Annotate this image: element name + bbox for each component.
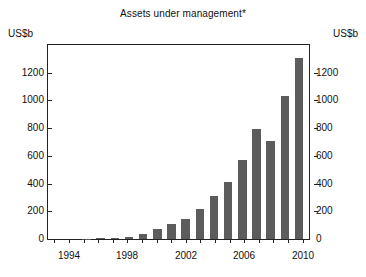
y-tick-mark: [314, 184, 318, 185]
bar-slot: [164, 45, 178, 239]
bar-slot: [94, 45, 108, 239]
y-axis-tick-label: 600: [27, 151, 44, 161]
y-axis-tick-label: 1000: [316, 95, 338, 105]
y-tick-mark: [48, 128, 52, 129]
x-tick-mark: [171, 239, 172, 243]
x-tick-mark: [84, 239, 85, 243]
y-axis-tick-label: 1000: [22, 95, 44, 105]
x-tick-mark: [259, 239, 260, 243]
bar: [196, 209, 205, 239]
x-tick-mark: [230, 239, 231, 243]
bar: [238, 160, 247, 239]
x-tick-mark: [157, 239, 158, 243]
x-axis-tick-label: 1994: [58, 250, 80, 261]
bar-slot: [207, 45, 221, 239]
y-tick-mark: [314, 128, 318, 129]
x-tick-mark: [288, 239, 289, 243]
x-tick-mark: [127, 239, 128, 243]
y-axis-tick-label: 400: [27, 179, 44, 189]
x-axis-tick-label: 2010: [292, 250, 314, 261]
y-axis-unit-left: US$b: [8, 28, 33, 39]
bar-slot: [179, 45, 193, 239]
bar: [252, 129, 261, 239]
bar: [295, 58, 304, 239]
x-axis-tick-label: 1998: [116, 250, 138, 261]
y-tick-mark: [314, 100, 318, 101]
bar-slot: [51, 45, 65, 239]
x-tick-mark: [215, 239, 216, 243]
y-axis-tick-label: 0: [38, 234, 44, 244]
y-tick-mark: [48, 211, 52, 212]
y-axis-tick-label: 1200: [22, 68, 44, 78]
y-axis-tick-label: 400: [316, 179, 333, 189]
bar: [224, 182, 233, 239]
bar: [167, 224, 176, 239]
chart-root: Assets under management* US$b US$b 02004…: [0, 0, 366, 277]
y-axis-tick-label: 800: [27, 123, 44, 133]
bar: [111, 238, 120, 239]
bar-slot: [108, 45, 122, 239]
x-tick-mark: [142, 239, 143, 243]
y-tick-mark: [314, 73, 318, 74]
y-tick-mark: [314, 156, 318, 157]
bar: [153, 229, 162, 239]
x-tick-mark: [244, 239, 245, 243]
x-tick-mark: [54, 239, 55, 243]
bar-slot: [235, 45, 249, 239]
bar: [125, 237, 134, 239]
x-tick-mark: [273, 239, 274, 243]
y-axis-tick-label: 200: [316, 206, 333, 216]
y-axis-tick-label: 200: [27, 206, 44, 216]
bar-slot: [292, 45, 306, 239]
x-axis-tick-label: 2002: [175, 250, 197, 261]
plot-area: [47, 44, 310, 240]
y-axis-tick-label: 1200: [316, 68, 338, 78]
y-axis-unit-right: US$b: [333, 28, 358, 39]
bar-slot: [278, 45, 292, 239]
x-tick-mark: [69, 239, 70, 243]
x-tick-mark: [186, 239, 187, 243]
bar: [210, 196, 219, 239]
bar: [139, 234, 148, 239]
bar: [266, 141, 275, 239]
y-axis-tick-label: 600: [316, 151, 333, 161]
y-tick-mark: [48, 73, 52, 74]
y-axis-tick-label: 0: [316, 234, 322, 244]
bar-slot: [264, 45, 278, 239]
y-tick-mark: [48, 184, 52, 185]
x-tick-mark: [98, 239, 99, 243]
x-tick-mark: [113, 239, 114, 243]
bar-slot: [249, 45, 263, 239]
bar-slot: [136, 45, 150, 239]
bar-slot: [221, 45, 235, 239]
bar-slot: [122, 45, 136, 239]
chart-title: Assets under management*: [0, 8, 366, 19]
y-tick-mark: [314, 211, 318, 212]
bar-slot: [150, 45, 164, 239]
y-tick-mark: [48, 100, 52, 101]
bar-slot: [65, 45, 79, 239]
bar-series: [48, 45, 309, 239]
x-axis-tick-label: 2006: [233, 250, 255, 261]
bar-slot: [193, 45, 207, 239]
y-axis-tick-label: 800: [316, 123, 333, 133]
x-tick-mark: [303, 239, 304, 243]
bar: [281, 96, 290, 239]
y-tick-mark: [48, 156, 52, 157]
x-tick-mark: [200, 239, 201, 243]
bar: [181, 219, 190, 239]
bar-slot: [79, 45, 93, 239]
